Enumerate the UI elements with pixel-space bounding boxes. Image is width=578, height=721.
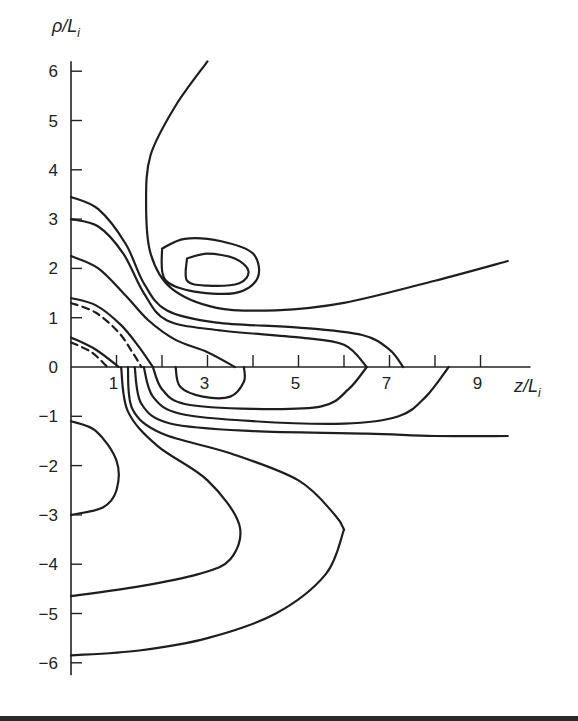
y-tick-label: −6 — [39, 654, 58, 673]
contour-line-lower-6.5 — [153, 367, 367, 409]
x-tick-label: 9 — [473, 374, 482, 393]
y-axis-label: ρ/Li — [51, 16, 80, 40]
x-tick-label: 5 — [291, 374, 300, 393]
y-tick-label: −1 — [39, 407, 58, 426]
y-tick-label: −5 — [39, 605, 58, 624]
y-tick-label: 6 — [49, 62, 58, 81]
x-tick-label: 3 — [200, 374, 209, 393]
contour-line-upper-0.6 — [71, 337, 119, 367]
contours — [71, 61, 508, 655]
y-tick-label: 3 — [49, 210, 58, 229]
y-tick-label: 1 — [49, 309, 58, 328]
y-tick-label: −3 — [39, 506, 58, 525]
contour-line-left-lobe — [71, 421, 119, 515]
contour-line-lower-open-right — [135, 367, 508, 436]
axes — [71, 61, 531, 675]
y-tick-label: −4 — [39, 555, 58, 574]
x-axis-label: z/Li — [513, 376, 541, 400]
contour-line-island-inner — [185, 254, 248, 286]
y-tick-label: 2 — [49, 259, 58, 278]
x-tick-label: 7 — [382, 374, 391, 393]
contour-line-outer-upper-open — [146, 61, 508, 311]
bottom-border — [0, 716, 578, 721]
contour-line-lower-far-3 — [71, 530, 344, 656]
contour-line-upper-3.5 — [71, 197, 403, 367]
contour-plot: 6543210−1−2−3−4−5−613579 ρ/Li z/Li — [0, 0, 578, 721]
y-tick-label: −2 — [39, 457, 58, 476]
y-tick-label: 4 — [49, 161, 58, 180]
contour-line-lower-bubble — [176, 367, 245, 398]
y-tick-label: 5 — [49, 112, 58, 131]
x-tick-label: 1 — [109, 374, 118, 393]
contour-line-upper-1.4 — [71, 298, 153, 367]
y-tick-label: 0 — [49, 358, 58, 377]
